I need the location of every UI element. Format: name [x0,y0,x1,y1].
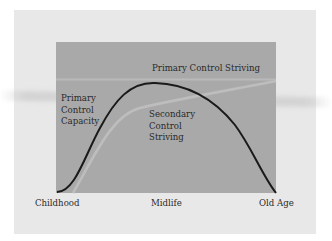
label-line: Secondary [149,109,195,121]
label-line: Striving [149,132,195,144]
x-axis-label-midlife: Midlife [151,198,182,208]
diagram-stage: Primary Control Striving Primary Control… [0,0,332,241]
x-axis-label-old-age: Old Age [259,198,294,208]
label-line: Primary [61,93,99,105]
primary-control-striving-label: Primary Control Striving [152,63,260,75]
primary-control-capacity-label: Primary Control Capacity [61,93,99,128]
secondary-control-striving-label: Secondary Control Striving [149,109,195,144]
x-axis-label-childhood: Childhood [35,198,80,208]
label-line: Capacity [61,116,99,128]
label-line: Control [61,105,99,117]
label-line: Control [149,121,195,133]
